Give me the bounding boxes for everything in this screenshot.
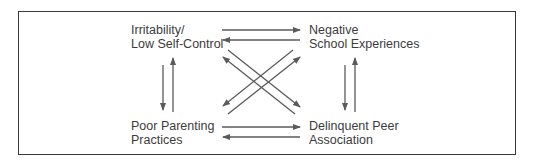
arrow-parenting-to-school	[228, 57, 300, 114]
arrows-layer	[0, 0, 536, 168]
arrow-irritability-to-peer	[228, 50, 300, 107]
arrow-peer-to-irritability	[223, 57, 295, 114]
arrow-school-to-parenting	[223, 50, 293, 106]
